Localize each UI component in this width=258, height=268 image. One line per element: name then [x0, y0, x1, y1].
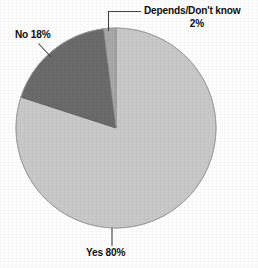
pie-label-no: No 18%	[15, 28, 50, 40]
pie-label-yes: Yes 80%	[86, 246, 125, 258]
pie-label-depends-value: 2%	[148, 17, 246, 29]
pie-label-depends: Depends/Don't know	[144, 4, 240, 16]
pie-chart-graphic	[0, 0, 258, 268]
pie-chart: Depends/Don't know 2% No 18% Yes 80%	[0, 0, 258, 268]
leader-line-no	[39, 44, 52, 58]
